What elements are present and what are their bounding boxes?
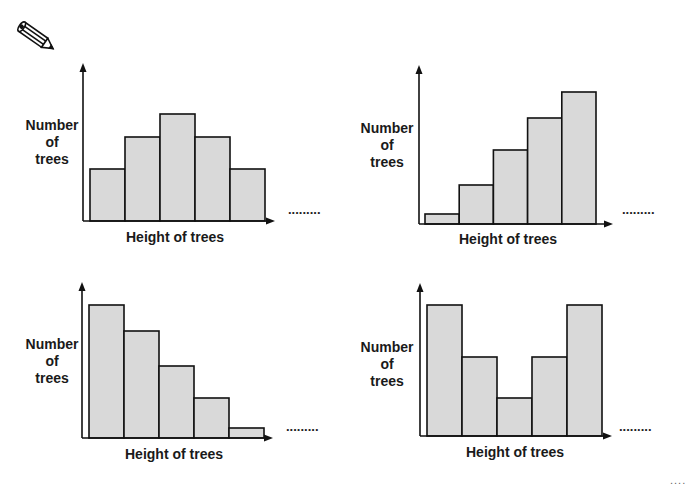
histogram-plot — [0, 0, 695, 485]
y-axis-label-line: Number — [352, 339, 422, 356]
histogram-bar — [462, 357, 497, 436]
x-axis-arrow-icon — [603, 433, 612, 440]
y-axis-label-line: trees — [352, 373, 422, 390]
y-axis-label-line: of — [352, 356, 422, 373]
y-axis-arrow-icon — [417, 283, 424, 292]
y-axis-label: Numberoftrees — [352, 339, 422, 390]
histogram-worksheet: .... NumberoftreesHeight of trees.......… — [0, 0, 695, 485]
histogram-bar — [567, 305, 602, 436]
x-axis-label: Height of trees — [466, 444, 564, 460]
answer-blank-dots: ......... — [619, 423, 652, 431]
histogram-bar — [532, 357, 567, 436]
histogram-bar — [497, 398, 532, 436]
histogram-bar — [427, 305, 462, 436]
